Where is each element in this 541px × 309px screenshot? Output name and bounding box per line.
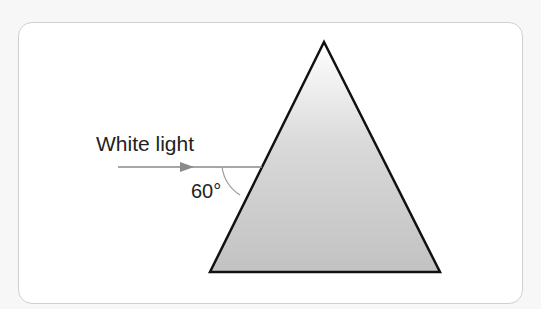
incident-ray-label: White light xyxy=(96,132,194,156)
arrow-head-icon xyxy=(180,162,194,172)
prism-triangle xyxy=(210,42,440,272)
prism-diagram xyxy=(0,0,541,309)
angle-label: 60° xyxy=(191,180,221,203)
angle-arc xyxy=(222,167,240,195)
